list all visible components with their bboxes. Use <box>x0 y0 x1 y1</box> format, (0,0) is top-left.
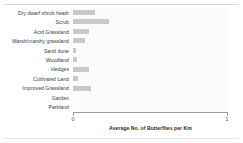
bar-row <box>73 93 228 102</box>
bar-row <box>73 74 228 83</box>
bar-row <box>73 27 228 36</box>
x-axis-line <box>73 112 228 113</box>
y-axis-label-9: Garden <box>0 93 71 102</box>
category-label: Improved Grassland <box>22 85 71 91</box>
bar-row <box>73 103 228 112</box>
category-label: Garden <box>52 95 71 101</box>
y-axis-label-3: Marsh/marshy grassland <box>0 36 71 45</box>
y-axis-label-7: Cultivated Land <box>0 74 71 83</box>
category-label: Scrub <box>55 19 71 25</box>
bar <box>73 10 95 15</box>
category-label: Acid Grassland <box>34 29 71 35</box>
bar-row <box>73 65 228 74</box>
y-axis-label-1: Scrub <box>0 17 71 26</box>
figure-bottom-border <box>4 138 239 139</box>
y-axis-label-4: Sand dune <box>0 46 71 55</box>
bar <box>73 86 91 91</box>
y-axis-label-10: Parkland <box>0 103 71 112</box>
category-label: Marsh/marshy grassland <box>12 38 71 44</box>
y-axis-label-0: Dry dwarf shrub heath <box>0 8 71 17</box>
bar-row <box>73 55 228 64</box>
bar <box>73 57 77 62</box>
y-axis-label-8: Improved Grassland <box>0 84 71 93</box>
bar <box>73 38 85 43</box>
bar <box>73 29 89 34</box>
category-label: Cultivated Land <box>33 76 71 82</box>
figure-top-border <box>4 4 239 5</box>
category-label: Hedges <box>51 66 71 72</box>
category-label: Dry dwarf shrub heath <box>18 10 71 16</box>
plot-area <box>73 8 228 112</box>
x-axis-title: Average No. of Butterflies per Km <box>73 125 228 132</box>
category-label: Sand dune <box>44 48 71 54</box>
y-axis-label-6: Hedges <box>0 65 71 74</box>
y-axis-label-5: Woodland <box>0 55 71 64</box>
bar <box>73 48 76 53</box>
y-axis-category-labels: Dry dwarf shrub heath Scrub Acid Grassla… <box>0 8 71 112</box>
bar-row <box>73 17 228 26</box>
category-label: Woodland <box>46 57 71 63</box>
bar <box>73 67 89 72</box>
chart-figure: Dry dwarf shrub heath Scrub Acid Grassla… <box>0 0 243 143</box>
x-axis-tick-label-0: 0 <box>68 116 78 122</box>
bar-row <box>73 8 228 17</box>
bar-row <box>73 36 228 45</box>
bar <box>73 76 78 81</box>
x-axis-tick-label-1: 1 <box>222 116 232 122</box>
category-label: Parkland <box>49 104 71 110</box>
y-axis-label-2: Acid Grassland <box>0 27 71 36</box>
bar <box>73 19 109 24</box>
bar-row <box>73 46 228 55</box>
bar-series <box>73 8 228 112</box>
bar-row <box>73 84 228 93</box>
